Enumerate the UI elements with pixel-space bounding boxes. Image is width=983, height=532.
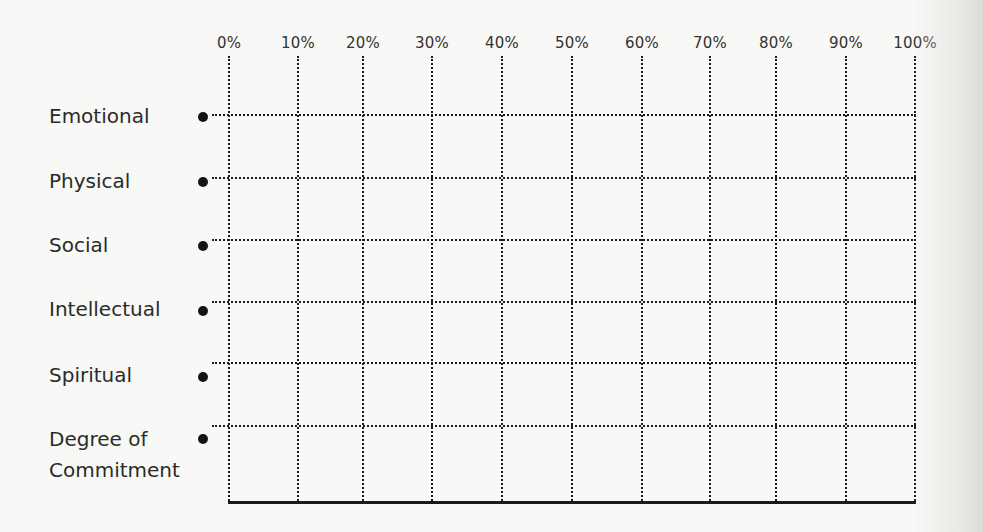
row-label-emotional: Emotional bbox=[49, 104, 149, 129]
row-line-intellectual bbox=[212, 301, 916, 303]
tick-label-60: 60% bbox=[625, 34, 659, 52]
gridline-vertical-40 bbox=[501, 56, 503, 504]
tick-label-70: 70% bbox=[693, 34, 727, 52]
gridline-vertical-30 bbox=[431, 56, 433, 504]
gridline-vertical-0 bbox=[228, 56, 230, 504]
tick-label-90: 90% bbox=[829, 34, 863, 52]
row-line-physical bbox=[212, 177, 916, 179]
tick-label-100: 100% bbox=[893, 34, 937, 52]
gridline-vertical-10 bbox=[297, 56, 299, 504]
gridline-vertical-50 bbox=[571, 56, 573, 504]
gridline-vertical-70 bbox=[709, 56, 711, 504]
row-label-commitment-line2: Commitment bbox=[49, 458, 180, 483]
row-line-social bbox=[212, 239, 916, 241]
row-label-social: Social bbox=[49, 233, 108, 258]
row-line-emotional bbox=[212, 114, 916, 116]
tick-label-40: 40% bbox=[485, 34, 519, 52]
bullet-icon bbox=[198, 372, 208, 382]
row-label-spiritual: Spiritual bbox=[49, 363, 132, 388]
bullet-icon bbox=[198, 177, 208, 187]
tick-label-20: 20% bbox=[346, 34, 380, 52]
row-label-commitment-line1: Degree of bbox=[49, 427, 147, 452]
commitment-worksheet-chart: 0% 10% 20% 30% 40% 50% 60% 70% 80% 90% 1… bbox=[0, 0, 983, 532]
row-label-physical: Physical bbox=[49, 169, 130, 194]
gridline-vertical-20 bbox=[362, 56, 364, 504]
bullet-icon bbox=[198, 434, 208, 444]
x-axis-baseline bbox=[228, 501, 916, 504]
row-line-spiritual bbox=[212, 362, 916, 364]
tick-label-50: 50% bbox=[555, 34, 589, 52]
row-line-commitment bbox=[212, 425, 916, 427]
row-label-intellectual: Intellectual bbox=[49, 297, 160, 322]
gridline-vertical-80 bbox=[775, 56, 777, 504]
bullet-icon bbox=[198, 306, 208, 316]
gridline-vertical-60 bbox=[641, 56, 643, 504]
tick-label-30: 30% bbox=[415, 34, 449, 52]
bullet-icon bbox=[198, 241, 208, 251]
gridline-vertical-100 bbox=[914, 56, 916, 504]
tick-label-80: 80% bbox=[759, 34, 793, 52]
bullet-icon bbox=[198, 112, 208, 122]
gridline-vertical-90 bbox=[845, 56, 847, 504]
tick-label-10: 10% bbox=[281, 34, 315, 52]
tick-label-0: 0% bbox=[217, 34, 241, 52]
